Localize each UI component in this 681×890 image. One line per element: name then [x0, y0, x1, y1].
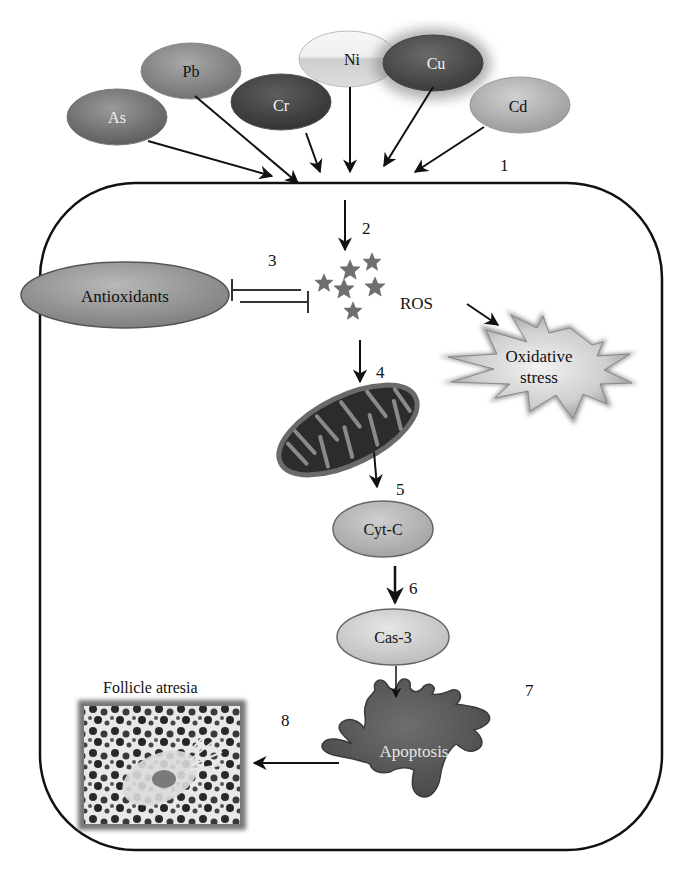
- mitochondrion: [266, 367, 431, 494]
- step-number-8: 8: [281, 712, 290, 729]
- step-number-5: 5: [396, 481, 405, 498]
- step-number-2: 2: [362, 220, 371, 237]
- cas-3-label: Cas-3: [374, 630, 411, 646]
- step-number-1: 1: [500, 157, 509, 174]
- apoptotic-cell: [322, 679, 490, 797]
- follicle-atresia-label: Follicle atresia: [103, 680, 198, 696]
- cyt-c-label: Cyt-C: [363, 522, 402, 538]
- arrow-to-cyt-c: [374, 452, 377, 487]
- step-number-4: 4: [376, 364, 385, 381]
- metal-label-cd: Cd: [509, 99, 528, 115]
- metal-label-as: As: [108, 110, 126, 126]
- oxidative-stress-label-line1: Oxidative: [505, 348, 572, 365]
- metal-ellipses: [67, 28, 570, 145]
- apoptosis-label: Apoptosis: [380, 743, 449, 760]
- arrow-ros-to-oxidative-stress: [467, 304, 498, 325]
- follicle-atresia-image: [78, 700, 246, 830]
- oxidative-stress-label-line2: stress: [520, 369, 558, 386]
- heavy-metal-ovarian-toxicity-diagram: [0, 0, 681, 890]
- step-number-3: 3: [268, 252, 277, 269]
- step-number-7: 7: [525, 682, 534, 699]
- inhibition-arrows: [232, 279, 308, 313]
- step-number-6: 6: [409, 580, 418, 597]
- metal-label-pb: Pb: [183, 64, 200, 80]
- ros-stars: [315, 253, 385, 319]
- antioxidants-label: Antioxidants: [81, 288, 169, 305]
- ros-label: ROS: [400, 295, 433, 312]
- metal-label-cr: Cr: [273, 98, 289, 114]
- metal-label-cu: Cu: [427, 56, 446, 72]
- metal-label-ni: Ni: [344, 52, 360, 68]
